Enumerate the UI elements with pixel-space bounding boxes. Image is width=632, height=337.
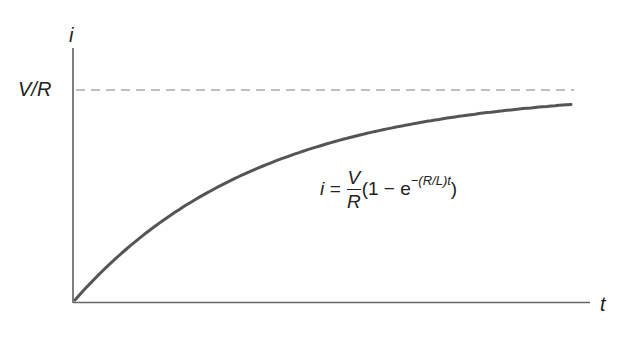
asymptote-label: V/R: [18, 78, 51, 101]
equation-paren-open: (1 − e: [362, 178, 411, 199]
equation-lhs: i =: [320, 178, 341, 199]
equation-exponent: −(R/L)t: [411, 173, 451, 188]
equation-fraction: V R: [347, 168, 361, 211]
y-axis-label: i: [69, 24, 73, 47]
equation: i = V R (1 − e−(R/L)t): [320, 168, 457, 211]
equation-paren-close: ): [451, 178, 457, 199]
x-axis-label: t: [600, 293, 606, 316]
equation-denominator: R: [347, 192, 361, 211]
equation-numerator: V: [347, 168, 361, 187]
chart-canvas: [0, 0, 632, 337]
fraction-bar: [347, 189, 361, 190]
